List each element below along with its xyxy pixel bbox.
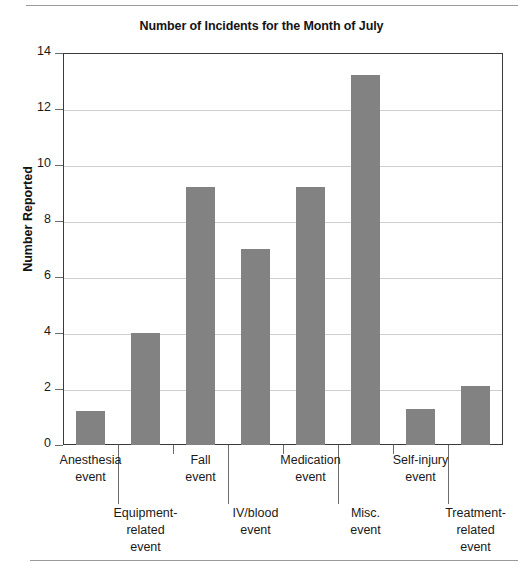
bar-series xyxy=(63,53,503,445)
bar xyxy=(186,187,216,445)
y-axis-tick-mark xyxy=(55,221,63,222)
y-axis-tick-mark xyxy=(55,109,63,110)
bar xyxy=(351,75,381,445)
bar xyxy=(406,409,436,445)
y-axis-tick-label: 0 xyxy=(44,436,51,450)
x-axis-label: Treatment- related event xyxy=(425,505,523,556)
bar xyxy=(131,333,161,445)
y-axis-tick-mark xyxy=(55,277,63,278)
bar xyxy=(76,411,106,445)
x-axis-label: Medication event xyxy=(260,452,362,486)
x-axis-label: Self-injury event xyxy=(370,452,472,486)
y-axis-tick-label: 14 xyxy=(37,44,51,58)
y-axis-tick-label: 10 xyxy=(37,156,51,170)
bar xyxy=(296,187,326,445)
x-axis-label: Equipment- related event xyxy=(95,505,197,556)
y-axis-title: Number Reported xyxy=(21,149,35,289)
y-axis-tick-mark xyxy=(55,445,63,446)
x-axis-label: Misc. event xyxy=(315,505,417,539)
x-axis-label: Anesthesia event xyxy=(40,452,142,486)
y-axis-tick-label: 12 xyxy=(37,100,51,114)
y-axis-tick-label: 2 xyxy=(44,380,51,394)
y-axis-tick-mark xyxy=(55,333,63,334)
y-axis-tick-label: 4 xyxy=(44,324,51,338)
y-axis-tick-label: 6 xyxy=(44,268,51,282)
x-axis-label: Fall event xyxy=(150,452,252,486)
page-rule-bottom xyxy=(30,560,518,561)
page-rule-top xyxy=(26,5,518,6)
x-axis-label: IV/blood event xyxy=(205,505,307,539)
y-axis-tick-mark xyxy=(55,53,63,54)
y-axis-tick-label: 8 xyxy=(44,212,51,226)
chart-title: Number of Incidents for the Month of Jul… xyxy=(0,19,523,33)
y-axis-tick-mark xyxy=(55,165,63,166)
y-axis-tick-mark xyxy=(55,389,63,390)
bar xyxy=(461,386,491,445)
bar xyxy=(241,249,271,445)
